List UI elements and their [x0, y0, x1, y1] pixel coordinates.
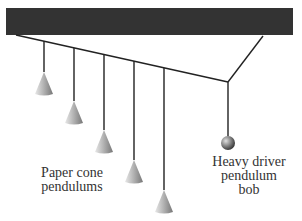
cone-bob-4 [125, 160, 143, 184]
cone-bob-1 [35, 72, 53, 96]
pendulum-diagram: Paper cone pendulums Heavy driver pendul… [0, 0, 302, 221]
support-bar [6, 8, 293, 35]
cone-bob-2 [65, 101, 83, 125]
driver-pendulum-label: Heavy driver pendulum bob [206, 155, 292, 197]
cone-bob-3 [95, 130, 113, 154]
cone-bob-5 [155, 190, 173, 214]
driver-ball-bob [221, 136, 235, 150]
cone-pendulums-label: Paper cone pendulums [36, 166, 108, 194]
